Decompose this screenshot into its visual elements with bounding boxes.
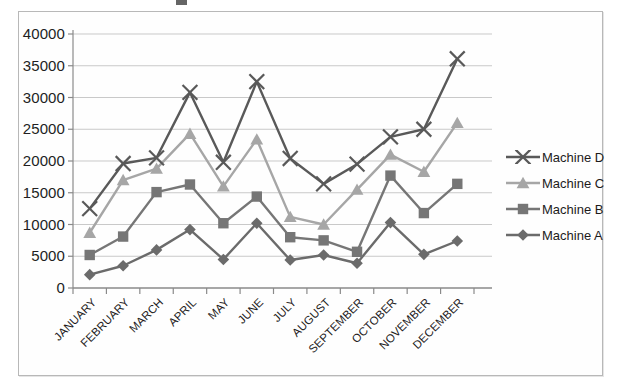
- data-point-marker: [151, 244, 163, 256]
- legend-item-machine-a[interactable]: Machine A: [506, 222, 618, 248]
- data-point-marker: [250, 133, 263, 144]
- legend-triangle-icon: [506, 176, 540, 190]
- data-point-marker: [517, 229, 529, 241]
- series-machine-c: [83, 117, 463, 238]
- data-point-marker: [117, 260, 129, 272]
- legend-item-machine-b[interactable]: Machine B: [506, 196, 618, 222]
- legend-diamond-icon: [506, 228, 540, 242]
- y-axis-tick-label: 5000: [19, 247, 65, 264]
- series-machine-b: [85, 170, 463, 260]
- series-line: [90, 59, 458, 209]
- data-point-marker: [252, 191, 262, 201]
- data-point-marker: [151, 187, 161, 197]
- y-axis-tick-label: 0: [19, 279, 65, 296]
- data-point-marker: [384, 148, 397, 159]
- series-line: [90, 223, 458, 275]
- y-axis-tick-label: 10000: [19, 216, 65, 233]
- y-axis-tick-label: 40000: [19, 25, 65, 42]
- data-point-marker: [451, 117, 464, 128]
- data-point-marker: [85, 250, 95, 260]
- data-point-marker: [451, 235, 463, 247]
- legend-square-icon: [506, 202, 540, 216]
- data-point-marker: [452, 179, 462, 189]
- legend-label: Machine D: [540, 150, 604, 165]
- cropped-title-artifact: [176, 0, 187, 5]
- data-point-marker: [84, 269, 96, 281]
- y-axis-tick-label: 15000: [19, 184, 65, 201]
- series-machine-d: [82, 51, 464, 216]
- data-point-marker: [318, 235, 328, 245]
- data-point-marker: [419, 208, 429, 218]
- series-machine-a: [84, 217, 463, 281]
- data-point-marker: [385, 170, 395, 180]
- data-point-marker: [284, 211, 297, 222]
- legend-x-cross-icon: [506, 150, 540, 164]
- data-point-marker: [218, 218, 228, 228]
- data-point-marker: [83, 227, 96, 238]
- y-axis-tick-label: 30000: [19, 89, 65, 106]
- legend-label: Machine C: [540, 176, 604, 191]
- y-axis-tick-label: 35000: [19, 57, 65, 74]
- y-axis-tick-label: 25000: [19, 120, 65, 137]
- data-point-marker: [318, 249, 330, 261]
- data-point-marker: [185, 179, 195, 189]
- legend-item-machine-d[interactable]: Machine D: [506, 144, 618, 170]
- chart-container: 0500010000150002000025000300003500040000…: [18, 11, 603, 376]
- chart-legend: Machine DMachine CMachine BMachine A: [506, 144, 618, 248]
- data-point-marker: [518, 204, 528, 214]
- legend-label: Machine B: [540, 202, 603, 217]
- y-axis-tick-label: 20000: [19, 152, 65, 169]
- legend-item-machine-c[interactable]: Machine C: [506, 170, 618, 196]
- data-point-marker: [352, 247, 362, 257]
- data-point-marker: [285, 232, 295, 242]
- data-point-marker: [118, 231, 128, 241]
- legend-label: Machine A: [540, 228, 603, 243]
